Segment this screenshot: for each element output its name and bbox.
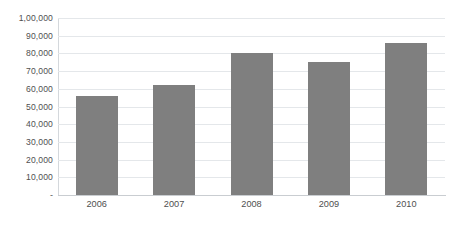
x-axis: 20062007200820092010 <box>58 199 445 219</box>
x-tick-label: 2008 <box>241 199 261 210</box>
x-tick-label: 2007 <box>164 199 184 210</box>
x-tick-label: 2006 <box>86 199 106 210</box>
bar-2009[interactable] <box>308 62 350 195</box>
y-tick-label: 50,000 <box>0 102 53 111</box>
y-tick-label: - <box>0 191 53 200</box>
y-tick-label: 10,000 <box>0 173 53 182</box>
y-axis: -10,00020,00030,00040,00050,00060,00070,… <box>0 0 53 232</box>
bar-2006[interactable] <box>76 96 118 195</box>
x-tick-label: 2010 <box>396 199 416 210</box>
x-tick-label: 2009 <box>319 199 339 210</box>
y-tick-label: 20,000 <box>0 155 53 164</box>
bar-2007[interactable] <box>153 85 195 195</box>
bar-chart: -10,00020,00030,00040,00050,00060,00070,… <box>0 0 451 232</box>
bar-2008[interactable] <box>231 53 273 195</box>
x-axis-line <box>58 195 446 196</box>
y-tick-label: 60,000 <box>0 85 53 94</box>
y-tick-label: 30,000 <box>0 138 53 147</box>
bar-2010[interactable] <box>385 43 427 195</box>
bars-layer <box>58 18 445 195</box>
plot-area <box>58 18 445 195</box>
y-tick-label: 40,000 <box>0 120 53 129</box>
y-tick-label: 1,00,000 <box>0 14 53 23</box>
y-tick-label: 70,000 <box>0 67 53 76</box>
y-tick-label: 90,000 <box>0 31 53 40</box>
y-tick-label: 80,000 <box>0 49 53 58</box>
